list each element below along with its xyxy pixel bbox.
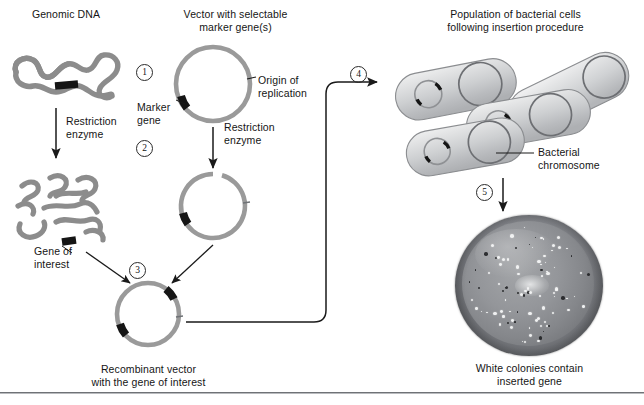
label-marker-gene-line2: gene	[137, 114, 161, 127]
vector-plasmid-intact	[176, 47, 256, 121]
label-origin-line1: Origin of	[258, 74, 299, 87]
step-badge-4: 4	[350, 66, 367, 83]
petri-dish	[455, 215, 603, 356]
label-restriction-enzyme-left-line1: Restriction	[66, 115, 117, 128]
bottom-divider-rule	[0, 392, 644, 394]
marker-gene-segment	[181, 96, 187, 108]
title-vector-line1: Vector with selectable	[148, 8, 323, 21]
step-badge-5: 5	[476, 184, 493, 201]
marker-gene-segment-cut	[183, 213, 188, 224]
label-restriction-enzyme-left-line2: enzyme	[66, 128, 103, 141]
origin-tick-recombinant	[176, 316, 183, 317]
step-badge-3: 3	[129, 262, 146, 279]
arrow-gene-to-recombinant	[86, 252, 130, 283]
dish-rim-shadow	[455, 215, 603, 356]
title-vector-line2: marker gene(s)	[148, 21, 323, 34]
label-recombinant-line2: with the gene of interest	[66, 376, 231, 389]
step-badge-1: 1	[136, 64, 153, 81]
inserted-gene-segment	[166, 289, 174, 299]
diagram-canvas: Genomic DNA Vector with selectable marke…	[0, 0, 644, 405]
label-restriction-enzyme-right-line2: enzyme	[224, 134, 261, 147]
recombinant-vector	[117, 283, 183, 345]
label-white-colonies-line1: White colonies contain	[442, 362, 617, 375]
label-origin-line2: replication	[258, 87, 307, 100]
label-marker-gene-line1: Marker	[137, 101, 170, 114]
gene-of-interest-segment-intact	[55, 84, 78, 86]
label-restriction-enzyme-right-line1: Restriction	[224, 121, 275, 134]
label-gene-of-interest-line2: interest	[34, 258, 69, 271]
origin-tick-cut	[243, 202, 250, 203]
title-population-line2: following insertion procedure	[398, 21, 633, 34]
genomic-dna-fragments	[18, 176, 103, 240]
label-recombinant-line1: Recombinant vector	[66, 363, 231, 376]
label-white-colonies-line2: inserted gene	[442, 375, 617, 388]
title-population-line1: Population of bacterial cells	[398, 8, 633, 21]
arrow-vector-to-recombinant	[172, 245, 213, 283]
bacterial-cell	[403, 114, 528, 179]
marker-gene-segment-recombinant	[120, 324, 126, 335]
title-genomic-dna: Genomic DNA	[6, 8, 126, 21]
label-bacterial-chromosome-line2: chromosome	[538, 159, 600, 172]
label-gene-of-interest-line1: Gene of	[34, 245, 72, 258]
gene-of-interest-segment-cut	[62, 240, 76, 242]
label-bacterial-chromosome-line1: Bacterial	[538, 146, 580, 159]
arrow-step-4-transformation	[186, 82, 377, 322]
genomic-dna-intact	[15, 55, 118, 98]
step-badge-2: 2	[136, 140, 153, 157]
vector-plasmid-cut	[181, 174, 250, 238]
